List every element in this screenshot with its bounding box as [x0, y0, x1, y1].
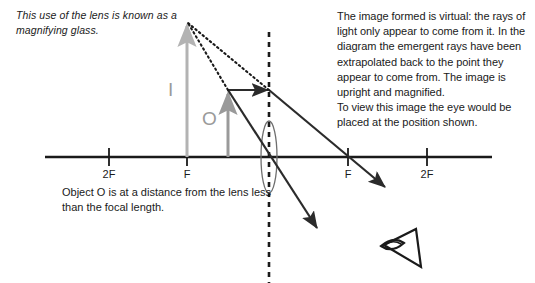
magnifier-note: This use of the lens is known as a magni… — [16, 8, 196, 38]
eye-icon — [381, 229, 421, 267]
image-arrow-label: I — [168, 79, 173, 101]
axis-label-f-left: F — [174, 168, 200, 180]
extrapolation-ray-upper — [188, 23, 269, 90]
axis-label-f-right: F — [335, 168, 361, 180]
axis-label-2f-left: 2F — [96, 168, 122, 180]
axis-label-2f-right: 2F — [414, 168, 440, 180]
object-arrow-label: O — [202, 108, 217, 130]
object-distance-note: Object O is at a distance from the lens … — [62, 185, 277, 215]
ray-diagram-page: 2F F F 2F I O This use of the lens is kn… — [0, 0, 535, 283]
virtual-image-note: The image formed is virtual: the rays of… — [337, 9, 533, 131]
